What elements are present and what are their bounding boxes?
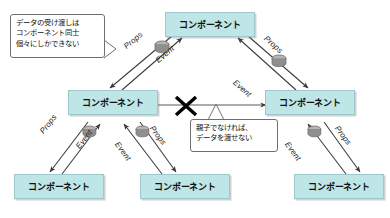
callout-line: コンポーネント同士	[16, 28, 100, 38]
component-box-label: コンポーネント	[154, 180, 216, 193]
component-box-mid-right[interactable]: コンポーネント	[265, 90, 355, 115]
diagram-canvas: コンポーネント コンポーネント コンポーネント コンポーネント コンポーネント …	[0, 0, 390, 218]
component-box-bottom-left[interactable]: コンポーネント	[14, 174, 104, 199]
component-box-label: コンポーネント	[28, 180, 90, 193]
callout-top-left: データの受け渡しは コンポーネント同士 個々にしかできない	[10, 14, 105, 58]
callout-line: 個々にしかできない	[16, 39, 100, 49]
callout-line: 親子でなければ、	[196, 123, 273, 133]
callout-line: データを渡せない	[196, 133, 273, 143]
callout-center: 親子でなければ、 データを渡せない	[190, 119, 278, 152]
component-box-bottom-right[interactable]: コンポーネント	[294, 174, 384, 199]
component-box-top[interactable]: コンポーネント	[165, 12, 255, 37]
blocked-x-mark	[176, 97, 196, 115]
component-box-mid-left[interactable]: コンポーネント	[68, 90, 158, 115]
edge-group-blocked	[156, 97, 266, 115]
component-box-label: コンポーネント	[279, 96, 341, 109]
callout-line: データの受け渡しは	[16, 18, 100, 28]
data-cylinder-icon	[272, 55, 286, 67]
component-box-label: コンポーネント	[308, 180, 370, 193]
data-cylinder-icon	[136, 126, 149, 137]
component-box-bottom-center[interactable]: コンポーネント	[140, 174, 230, 199]
callout-tail-top-left	[104, 40, 116, 58]
component-box-label: コンポーネント	[82, 96, 144, 109]
data-cylinder-icon	[308, 126, 321, 137]
component-box-label: コンポーネント	[179, 18, 241, 31]
callout-tail-center	[208, 104, 224, 120]
